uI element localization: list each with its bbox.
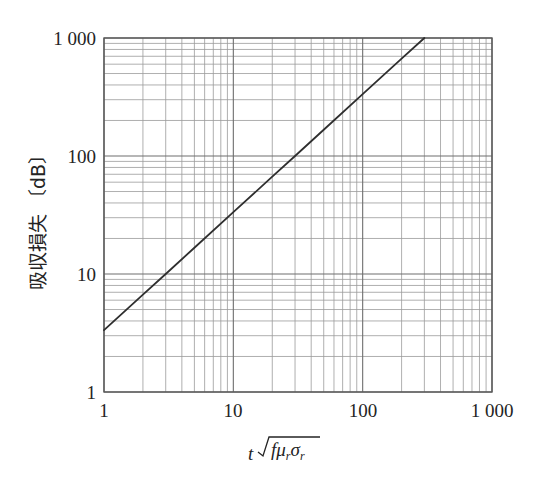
log-log-chart: 1 000 100 10 1 1 10 100 1 000 吸収損失 〔dB〕 …: [0, 0, 540, 483]
y-tick-label-1: 1: [87, 382, 97, 403]
y-axis-title: 吸収損失 〔dB〕: [27, 145, 49, 290]
x-tick-label-1000: 1 000: [471, 400, 514, 421]
x-title-radicand: fμ: [271, 439, 286, 460]
figure-root: 1 000 100 10 1 1 10 100 1 000 吸収損失 〔dB〕 …: [0, 0, 540, 483]
y-tick-label-1000: 1 000: [53, 28, 96, 49]
y-tick-label-10: 10: [77, 264, 96, 285]
x-tick-label-10: 10: [224, 400, 243, 421]
x-tick-label-1: 1: [99, 400, 109, 421]
svg-text:t: t: [248, 443, 254, 464]
x-title-sub2: r: [300, 449, 305, 463]
x-title-t: t: [248, 443, 254, 464]
y-tick-label-100: 100: [68, 146, 97, 167]
x-tick-label-100: 100: [349, 400, 378, 421]
chart-background: [0, 0, 540, 483]
